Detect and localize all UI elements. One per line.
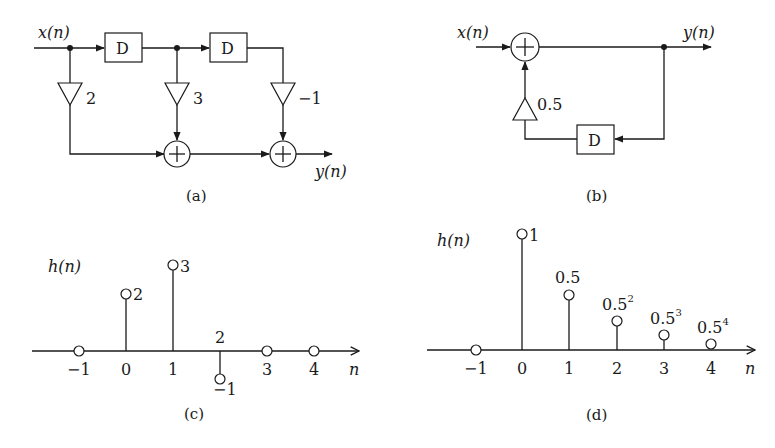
value-label: −1 xyxy=(213,380,237,399)
stem-marker xyxy=(517,229,527,239)
feedback-line xyxy=(615,47,664,139)
caption-c: (c) xyxy=(184,405,204,423)
delay-label: D xyxy=(116,39,129,58)
tick-label: 0 xyxy=(517,359,527,378)
output-label: y(n) xyxy=(682,23,715,42)
caption-b: (b) xyxy=(586,187,607,205)
tick-label: 3 xyxy=(262,360,272,379)
tick-label: 4 xyxy=(706,359,716,378)
tick-label: 1 xyxy=(168,360,178,379)
panel-a-fir-diagram: x(n) D D 2 3 −1 xyxy=(34,23,347,205)
panel-d-stem-plot: h(n) n 1 0.5 0.52 0.53 0.54 −1 0 1 2 3 4… xyxy=(427,226,755,424)
tick-label: 4 xyxy=(309,360,319,379)
stem-marker xyxy=(74,346,84,356)
panel-b-iir-diagram: x(n) y(n) D 0.5 (b) xyxy=(457,23,715,205)
stem-marker xyxy=(121,289,131,299)
tick-label: 0 xyxy=(121,360,131,379)
input-label: x(n) xyxy=(457,23,489,42)
x-axis-label: n xyxy=(349,360,359,379)
output-label: y(n) xyxy=(314,162,347,181)
value-label: 0.52 xyxy=(602,293,634,314)
figure-canvas: x(n) D D 2 3 −1 xyxy=(0,0,775,448)
stem-marker xyxy=(168,260,178,270)
delay-label: D xyxy=(221,39,234,58)
gain-triangle xyxy=(58,83,82,105)
gain-label: −1 xyxy=(298,89,322,108)
stem-marker xyxy=(262,346,272,356)
feedback-line xyxy=(525,120,577,139)
tick-label: −1 xyxy=(464,359,488,378)
stem-marker xyxy=(309,346,319,356)
tick-label: 2 xyxy=(612,359,622,378)
caption-a: (a) xyxy=(186,187,207,205)
value-label: 3 xyxy=(180,257,190,276)
value-label: 0.53 xyxy=(650,307,682,328)
stem-marker xyxy=(659,330,669,340)
tick-label: 3 xyxy=(659,359,669,378)
gain-triangle xyxy=(165,83,189,105)
tick-label: 2 xyxy=(215,328,225,347)
y-axis-label: h(n) xyxy=(48,257,81,276)
x-axis-label: n xyxy=(745,359,755,378)
signal-line xyxy=(247,48,283,83)
gain-label: 2 xyxy=(86,89,96,108)
panel-c-stem-plot: h(n) n 2 3 −1 −1 0 1 2 3 4 (c) xyxy=(32,257,359,423)
gain-label: 3 xyxy=(193,89,203,108)
value-label: 0.54 xyxy=(697,316,729,337)
input-label: x(n) xyxy=(38,23,70,42)
stem-marker xyxy=(564,290,574,300)
stem-marker xyxy=(612,316,622,326)
value-label: 2 xyxy=(133,285,143,304)
value-label: 1 xyxy=(529,226,539,245)
y-axis-label: h(n) xyxy=(437,231,470,250)
stem-marker xyxy=(706,339,716,349)
stem-marker xyxy=(471,345,481,355)
tick-label: −1 xyxy=(67,360,91,379)
value-label: 0.5 xyxy=(555,268,580,287)
delay-label: D xyxy=(588,131,601,150)
signal-line xyxy=(70,105,164,154)
gain-triangle xyxy=(271,83,295,105)
caption-d: (d) xyxy=(586,406,607,424)
gain-label: 0.5 xyxy=(537,95,562,114)
tick-label: 1 xyxy=(564,359,574,378)
gain-triangle xyxy=(513,98,537,120)
